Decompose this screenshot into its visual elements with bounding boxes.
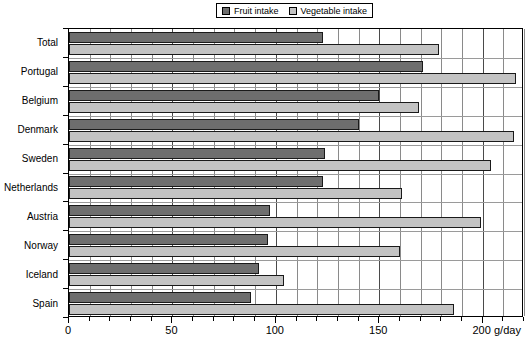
x-axis-tick-minor — [358, 317, 359, 321]
category-separator — [69, 145, 522, 146]
y-axis-label-denmark: Denmark — [17, 124, 58, 135]
bar-fruit-intake — [69, 234, 268, 245]
x-axis-tick-major — [68, 317, 69, 323]
bar-fruit-intake — [69, 205, 270, 216]
bar-fruit-intake — [69, 32, 323, 43]
bar-fruit-intake — [69, 119, 359, 130]
category-separator — [69, 231, 522, 232]
bar-vegetable-intake — [69, 188, 402, 199]
category-separator — [69, 260, 522, 261]
bar-vegetable-intake — [69, 304, 454, 315]
bar-group — [69, 116, 522, 145]
category-separator — [69, 87, 522, 88]
bar-series-container — [69, 29, 522, 316]
x-axis-tick-minor — [254, 317, 255, 321]
x-axis-labels: 050100150200 — [0, 324, 528, 340]
y-axis: TotalPortugalBelgiumDenmarkSwedenNetherl… — [0, 28, 64, 317]
x-axis-tick-major — [482, 317, 483, 323]
x-axis-tick-minor — [109, 317, 110, 321]
bar-vegetable-intake — [69, 275, 284, 286]
x-axis-tick-minor — [130, 317, 131, 321]
x-axis-tick-minor — [523, 317, 524, 321]
y-axis-label-portugal: Portugal — [21, 66, 58, 77]
bar-group — [69, 260, 522, 289]
x-axis-tick-major — [171, 317, 172, 323]
legend-swatch-veg — [289, 7, 297, 15]
x-axis-tick-minor — [337, 317, 338, 321]
y-axis-label-total: Total — [37, 37, 58, 48]
category-separator — [69, 116, 522, 117]
bar-vegetable-intake — [69, 131, 514, 142]
y-axis-label-belgium: Belgium — [22, 95, 58, 106]
bar-fruit-intake — [69, 148, 325, 159]
x-axis-tick-major — [275, 317, 276, 323]
bar-fruit-intake — [69, 61, 423, 72]
bar-fruit-intake — [69, 263, 259, 274]
legend-label: Fruit intake — [234, 6, 279, 16]
x-axis-tick-label: 0 — [65, 324, 71, 336]
bar-fruit-intake — [69, 292, 251, 303]
y-axis-label-iceland: Iceland — [26, 268, 58, 279]
x-axis-tick-minor — [440, 317, 441, 321]
x-axis-tick-minor — [192, 317, 193, 321]
x-axis-tick-minor — [151, 317, 152, 321]
bar-vegetable-intake — [69, 217, 481, 228]
x-axis-unit-label: g/day — [494, 324, 521, 336]
x-axis-tick-minor — [213, 317, 214, 321]
y-axis-label-austria: Austria — [27, 210, 58, 221]
category-separator — [69, 174, 522, 175]
x-axis-tick-minor — [316, 317, 317, 321]
category-separator — [69, 202, 522, 203]
bar-group — [69, 29, 522, 58]
bar-group — [69, 231, 522, 260]
bar-vegetable-intake — [69, 246, 400, 257]
bar-fruit-intake — [69, 90, 379, 101]
category-separator — [69, 58, 522, 59]
bar-fruit-intake — [69, 176, 323, 187]
y-axis-label-norway: Norway — [24, 239, 58, 250]
x-axis-tick-major — [378, 317, 379, 323]
plot-area — [68, 28, 523, 317]
legend-label: Vegetable intake — [301, 6, 368, 16]
x-axis-tick-minor — [233, 317, 234, 321]
x-axis-ticks — [68, 317, 523, 323]
bar-vegetable-intake — [69, 160, 491, 171]
bar-group — [69, 289, 522, 318]
x-axis-tick-label: 150 — [369, 324, 387, 336]
x-axis-tick-minor — [461, 317, 462, 321]
bar-vegetable-intake — [69, 44, 439, 55]
x-axis-tick-minor — [399, 317, 400, 321]
x-axis-tick-label: 200 — [472, 324, 490, 336]
bar-vegetable-intake — [69, 102, 419, 113]
chart-legend: Fruit intakeVegetable intake — [216, 3, 373, 18]
bar-chart: Fruit intakeVegetable intake TotalPortug… — [0, 0, 528, 343]
bar-group — [69, 145, 522, 174]
bar-group — [69, 58, 522, 87]
bar-group — [69, 174, 522, 203]
bar-vegetable-intake — [69, 73, 516, 84]
x-axis-tick-minor — [502, 317, 503, 321]
x-axis-tick-minor — [89, 317, 90, 321]
y-axis-label-spain: Spain — [32, 297, 58, 308]
legend-item[interactable]: Vegetable intake — [289, 6, 368, 16]
y-axis-label-sweden: Sweden — [22, 153, 58, 164]
category-separator — [69, 289, 522, 290]
bar-group — [69, 87, 522, 116]
gridline-minor — [524, 29, 525, 316]
bar-group — [69, 202, 522, 231]
legend-item[interactable]: Fruit intake — [222, 6, 279, 16]
x-axis-tick-minor — [420, 317, 421, 321]
x-axis-tick-label: 50 — [165, 324, 177, 336]
x-axis-tick-minor — [296, 317, 297, 321]
x-axis-tick-label: 100 — [266, 324, 284, 336]
legend-swatch-fruit — [222, 7, 230, 15]
y-axis-label-netherlands: Netherlands — [4, 181, 58, 192]
